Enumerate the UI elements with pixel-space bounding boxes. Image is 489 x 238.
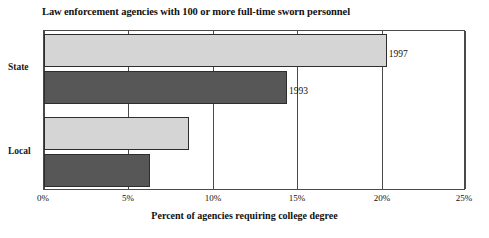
- bar-value-label-state-1993: 1993: [289, 87, 308, 97]
- bar-local-1997: [44, 117, 189, 150]
- xtick-25: 25%: [456, 193, 473, 203]
- bar-state-1993: [44, 71, 287, 104]
- xtick-15: 15%: [289, 193, 306, 203]
- category-label-local: Local: [8, 146, 31, 156]
- gridline-25: [465, 31, 466, 189]
- xtick-10: 10%: [205, 193, 222, 203]
- x-axis-title: Percent of agencies requiring college de…: [0, 210, 489, 221]
- bar-state-1997: [44, 34, 387, 67]
- bar-local-1993: [44, 154, 150, 187]
- xtick-0: 0%: [37, 193, 49, 203]
- category-label-state: State: [8, 62, 29, 72]
- xtick-5: 5%: [122, 193, 134, 203]
- bar-value-label-state-1997: 1997: [389, 50, 408, 60]
- xtick-20: 20%: [374, 193, 391, 203]
- chart-figure: Law enforcement agencies with 100 or mor…: [0, 0, 489, 238]
- chart-title: Law enforcement agencies with 100 or mor…: [42, 6, 350, 17]
